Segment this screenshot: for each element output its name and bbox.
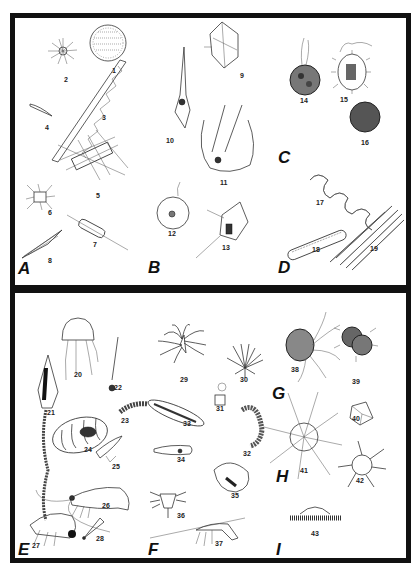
label-31: 31 xyxy=(216,405,224,412)
label-42: 42 xyxy=(356,477,364,484)
figure-8-fusiform-diatom xyxy=(22,230,62,258)
label-3: 3 xyxy=(102,114,106,121)
label-17: 17 xyxy=(316,199,324,206)
figure-34-fish-larva xyxy=(154,445,192,454)
figure-33-arrow-worm xyxy=(146,395,207,430)
label-5: 5 xyxy=(96,192,100,199)
label-9: 9 xyxy=(240,72,244,79)
label-1: 1 xyxy=(112,67,116,74)
label-19: 19 xyxy=(370,245,378,252)
label-2: 2 xyxy=(64,76,68,83)
figure-37-mysid xyxy=(150,518,245,546)
label-10: 10 xyxy=(166,137,174,144)
label-27: 27 xyxy=(32,542,40,549)
figure-10-ceratium xyxy=(175,47,190,128)
figure-18-filament xyxy=(286,229,347,261)
figure-labels: 1 2 3 4 5 6 7 8 9 10 11 12 13 14 15 16 1… xyxy=(32,67,378,549)
figure-22-arrow-larva xyxy=(109,337,118,391)
label-11: 11 xyxy=(220,179,228,186)
figure-2-star-diatom xyxy=(48,38,77,64)
figure-29-actinula-larva xyxy=(158,324,206,363)
label-18: 18 xyxy=(312,246,320,253)
label-15: 15 xyxy=(340,96,348,103)
label-20: 20 xyxy=(74,371,82,378)
label-7: 7 xyxy=(93,241,97,248)
label-41: 41 xyxy=(300,467,308,474)
figure-21-siphonophore xyxy=(38,355,58,520)
label-29: 29 xyxy=(180,376,188,383)
figure-24-doliolid xyxy=(49,411,112,458)
figure-32-trochophore xyxy=(242,408,262,447)
group-label-g: G xyxy=(272,384,285,403)
group-label-e: E xyxy=(18,540,30,559)
label-39: 39 xyxy=(352,378,360,385)
label-12: 12 xyxy=(168,230,176,237)
label-13: 13 xyxy=(222,244,230,251)
figure-31-larva xyxy=(215,383,226,405)
top-panel-frame xyxy=(13,16,409,288)
figure-12-noctiluca xyxy=(157,182,189,229)
label-35: 35 xyxy=(231,492,239,499)
figure-19-filament-bundle xyxy=(330,206,404,270)
label-14: 14 xyxy=(300,97,308,104)
label-32: 32 xyxy=(243,450,251,457)
plankton-plate: 1 2 3 4 5 6 7 8 9 10 11 12 13 14 15 16 1… xyxy=(0,0,418,569)
label-23: 23 xyxy=(121,417,129,424)
label-8: 8 xyxy=(48,257,52,264)
group-label-i: I xyxy=(276,540,282,559)
figure-30-echinoderm-larva xyxy=(227,344,263,378)
label-16: 16 xyxy=(361,139,369,146)
figure-39-radiolarian xyxy=(334,327,378,362)
label-25: 25 xyxy=(112,463,120,470)
label-38: 38 xyxy=(291,366,299,373)
figure-6-square-diatom xyxy=(26,184,55,210)
label-22: 22 xyxy=(114,384,122,391)
figure-26-shrimp xyxy=(36,487,129,532)
figure-1-centric-diatom xyxy=(90,25,126,61)
figure-15-spiny-flagellate xyxy=(331,42,372,94)
label-28: 28 xyxy=(96,535,104,542)
figure-9-dinoflagellate xyxy=(204,22,238,68)
figure-4-pennate-diatom xyxy=(30,104,52,116)
label-37: 37 xyxy=(215,540,223,547)
figure-41-spiny-radiolarian xyxy=(264,392,342,479)
label-36: 36 xyxy=(177,512,185,519)
label-43: 43 xyxy=(311,530,319,537)
figure-43-benthic-organism xyxy=(290,507,342,518)
group-label-b: B xyxy=(148,258,160,277)
label-6: 6 xyxy=(48,209,52,216)
figure-23-polychaete-larva xyxy=(120,404,148,412)
figure-35-veliger xyxy=(214,463,249,492)
label-34: 34 xyxy=(177,456,185,463)
group-label-c: C xyxy=(278,148,291,167)
figure-16-coccolith xyxy=(350,102,380,132)
label-4: 4 xyxy=(45,124,49,131)
label-26: 26 xyxy=(102,502,110,509)
group-labels: A B C D E F G H I xyxy=(17,148,291,559)
group-label-a: A xyxy=(17,259,30,278)
group-label-f: F xyxy=(148,540,159,559)
label-21: 21 xyxy=(47,409,55,416)
label-40: 40 xyxy=(352,415,360,422)
figure-5-spiny-chain-diatom xyxy=(58,130,128,180)
label-24: 24 xyxy=(84,446,92,453)
figure-11-horned-dinoflagellate xyxy=(201,105,253,171)
figure-14-coccolithophore xyxy=(290,38,320,95)
label-33: 33 xyxy=(183,420,191,427)
group-label-d: D xyxy=(278,258,290,277)
group-label-h: H xyxy=(276,467,289,486)
figure-7-rod-diatom xyxy=(67,215,128,250)
label-30: 30 xyxy=(240,376,248,383)
